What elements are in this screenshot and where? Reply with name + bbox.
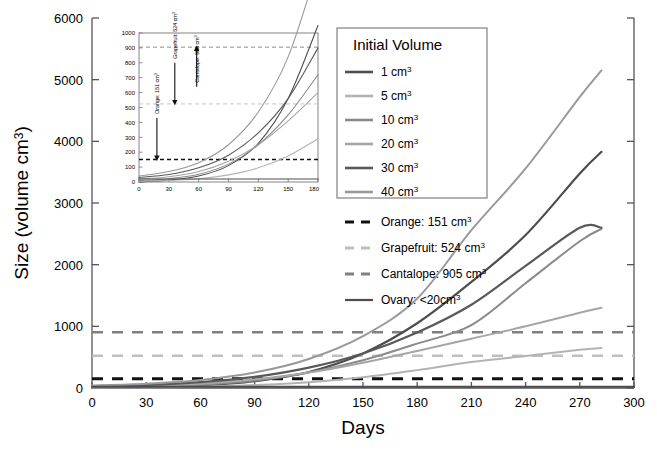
x-tick-label: 0 bbox=[88, 395, 95, 410]
y-tick-label: 2000 bbox=[54, 258, 83, 273]
inset-x-tick-label: 120 bbox=[253, 186, 264, 192]
x-tick-label: 210 bbox=[461, 395, 483, 410]
legend-label-3: 20 cm3 bbox=[381, 137, 419, 151]
legend-label-5: 40 cm3 bbox=[381, 185, 419, 199]
y-tick-label: 5000 bbox=[54, 73, 83, 88]
series-line-10-cm3 bbox=[92, 229, 601, 387]
x-tick-label: 300 bbox=[623, 395, 645, 410]
inset-annotation-label-1: Grapefruit: 524 cm3 bbox=[172, 12, 178, 59]
x-tick-label: 180 bbox=[406, 395, 428, 410]
inset-y-tick-label: 0 bbox=[132, 179, 136, 185]
legend-title: Initial Volume bbox=[353, 36, 442, 53]
inset-annotation-label-0: Orange: 151 cm3 bbox=[154, 73, 160, 114]
x-tick-label: 60 bbox=[193, 395, 207, 410]
inset-frame bbox=[139, 33, 318, 182]
inset-x-tick-label: 0 bbox=[137, 186, 141, 192]
inset-y-tick-label: 200 bbox=[125, 149, 136, 155]
inset-y-tick-label: 800 bbox=[125, 60, 136, 66]
legend-label-2: 10 cm3 bbox=[381, 113, 419, 127]
inset-x-tick-label: 150 bbox=[283, 186, 294, 192]
x-tick-label: 90 bbox=[247, 395, 261, 410]
x-tick-label: 150 bbox=[352, 395, 374, 410]
inset-y-tick-label: 1000 bbox=[122, 30, 136, 36]
y-tick-label: 0 bbox=[76, 381, 83, 396]
legend-label-4: 30 cm3 bbox=[381, 161, 419, 175]
inset-y-tick-label: 400 bbox=[125, 120, 136, 126]
ref-legend-label-3: Ovary: <20cm3 bbox=[381, 293, 461, 307]
y-axis-title: Size (volume cm3) bbox=[11, 126, 32, 279]
inset-annotation-label-2: Cantalope: 905 cm3 bbox=[194, 35, 200, 82]
y-tick-label: 3000 bbox=[54, 196, 83, 211]
y-tick-label: 1000 bbox=[54, 319, 83, 334]
series-line-20-cm3 bbox=[92, 308, 601, 387]
x-axis-title: Days bbox=[341, 417, 384, 438]
growth-curve-chart: 0100020003000400050006000030609012015018… bbox=[0, 0, 657, 455]
inset-x-tick-label: 180 bbox=[309, 186, 320, 192]
inset-y-tick-label: 300 bbox=[125, 135, 136, 141]
inset-x-tick-label: 30 bbox=[165, 186, 172, 192]
inset-y-tick-label: 500 bbox=[125, 105, 136, 111]
x-tick-label: 30 bbox=[139, 395, 153, 410]
x-tick-label: 240 bbox=[515, 395, 537, 410]
y-tick-label: 6000 bbox=[54, 11, 83, 26]
inset-y-tick-label: 100 bbox=[125, 164, 136, 170]
ref-legend-label-1: Grapefruit: 524 cm3 bbox=[381, 241, 485, 255]
ref-legend-label-0: Orange: 151 cm3 bbox=[381, 215, 472, 229]
inset-x-tick-label: 90 bbox=[225, 186, 232, 192]
y-tick-label: 4000 bbox=[54, 134, 83, 149]
x-tick-label: 120 bbox=[298, 395, 320, 410]
inset-y-tick-label: 700 bbox=[125, 75, 136, 81]
inset-y-tick-label: 600 bbox=[125, 90, 136, 96]
inset-x-tick-label: 60 bbox=[195, 186, 202, 192]
figure-canvas: 0100020003000400050006000030609012015018… bbox=[0, 0, 657, 455]
ref-legend-label-2: Cantalope: 905 cm3 bbox=[381, 267, 487, 281]
inset-y-tick-label: 900 bbox=[125, 45, 136, 51]
x-tick-label: 270 bbox=[569, 395, 591, 410]
